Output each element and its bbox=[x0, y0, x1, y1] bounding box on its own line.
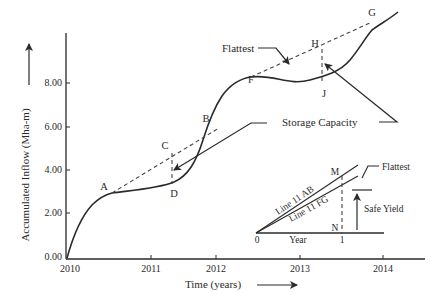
point-h: H bbox=[311, 38, 319, 49]
storage-capacity-label: Storage Capacity bbox=[282, 116, 358, 128]
y-tick-8: 8.00 bbox=[45, 77, 63, 88]
flattest-label: Flattest bbox=[222, 42, 254, 54]
x-tick-2010: 2010 bbox=[60, 263, 80, 274]
point-j: J bbox=[322, 88, 326, 99]
safe-yield-label: Safe Yield bbox=[364, 204, 404, 214]
point-g: G bbox=[368, 7, 376, 18]
y-tick-6: 6.00 bbox=[45, 121, 63, 132]
y-tick-0: 0.00 bbox=[45, 251, 63, 262]
inset-origin-label: 0 bbox=[255, 235, 260, 245]
x-tick-2013: 2013 bbox=[290, 263, 310, 274]
x-tick-2012: 2012 bbox=[206, 263, 226, 274]
point-b: B bbox=[202, 113, 209, 124]
point-d: D bbox=[170, 188, 178, 199]
mass-curve-diagram: 8.00 6.00 4.00 2.00 0.00 2010 2011 2012 … bbox=[0, 0, 443, 295]
y-tick-2: 2.00 bbox=[45, 207, 63, 218]
point-a: A bbox=[100, 181, 108, 192]
inset-point-m: M bbox=[331, 167, 340, 177]
inset-x-one-label: 1 bbox=[340, 235, 345, 245]
tangent-ab bbox=[112, 128, 219, 193]
storage-arrow-cd-icon bbox=[174, 123, 267, 170]
inset-flattest-label: Flattest bbox=[382, 162, 410, 172]
axes bbox=[66, 33, 425, 259]
x-tick-2011: 2011 bbox=[141, 263, 161, 274]
x-tick-2014: 2014 bbox=[373, 263, 393, 274]
inset-line-ab bbox=[256, 165, 358, 233]
inset-point-n: N bbox=[332, 223, 339, 233]
point-f: F bbox=[248, 74, 254, 85]
x-axis-label: Time (years) bbox=[185, 278, 241, 291]
y-tick-4: 4.00 bbox=[45, 164, 63, 175]
y-axis-label: Accumulated Inflow (Mha-m) bbox=[19, 108, 32, 242]
storage-arrow-hj-icon bbox=[325, 64, 397, 122]
point-c: C bbox=[161, 140, 168, 151]
tangent-fg bbox=[251, 22, 372, 77]
inset-year-label: Year bbox=[289, 235, 307, 245]
